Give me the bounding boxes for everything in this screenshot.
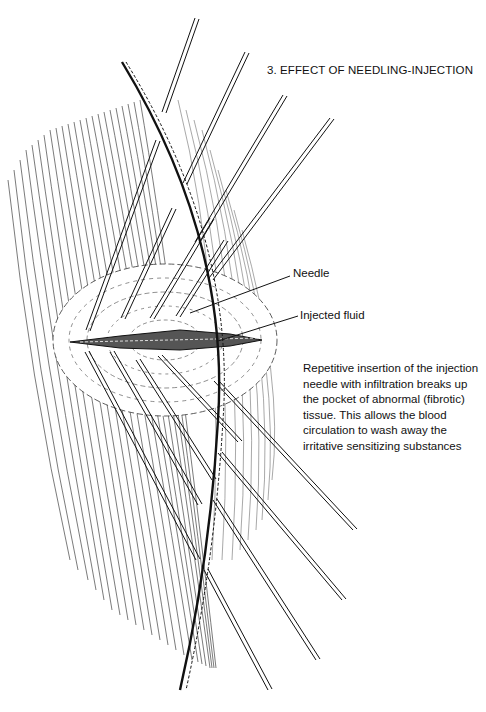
caption-line: irritative sensitizing substances [303,439,486,455]
caption: Repetitive insertion of the injection ne… [303,361,486,455]
caption-line: Repetitive insertion of the injection [303,361,486,377]
injected-fluid-label: Injected fluid [300,309,365,321]
caption-line: tissue. This allows the blood [303,408,486,424]
caption-line: the pocket of abnormal (fibrotic) [303,392,486,408]
caption-line: needle with infiltration breaks up [303,377,486,393]
needling-illustration [0,0,486,712]
needle-label: Needle [293,267,329,279]
caption-line: circulation to wash away the [303,423,486,439]
figure-title: 3. EFFECT OF NEEDLING-INJECTION [267,64,473,76]
